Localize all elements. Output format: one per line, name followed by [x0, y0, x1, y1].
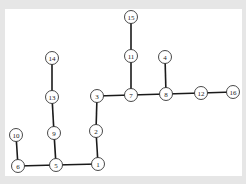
node-label: 12 [198, 90, 206, 98]
node-14: 14 [46, 52, 59, 65]
node-label: 1 [96, 161, 100, 169]
node-15: 15 [125, 11, 138, 24]
node-label: 15 [128, 14, 136, 22]
diagram-canvas: 12345678910111213141516 [0, 0, 246, 184]
node-2: 2 [90, 125, 103, 138]
node-label: 10 [13, 132, 21, 140]
node-7: 7 [125, 89, 138, 102]
node-4: 4 [159, 51, 172, 64]
node-label: 3 [95, 93, 99, 101]
node-label: 8 [164, 91, 168, 99]
node-label: 4 [163, 54, 167, 62]
node-8: 8 [160, 88, 173, 101]
node-label: 2 [94, 128, 98, 136]
node-1: 1 [92, 158, 105, 171]
node-label: 14 [49, 55, 57, 63]
node-10: 10 [10, 129, 23, 142]
node-3: 3 [91, 90, 104, 103]
node-layer: 12345678910111213141516 [10, 11, 240, 173]
node-12: 12 [195, 87, 208, 100]
node-label: 5 [54, 162, 58, 170]
node-label: 9 [52, 130, 56, 138]
node-9: 9 [48, 127, 61, 140]
node-5: 5 [50, 159, 63, 172]
node-label: 6 [16, 163, 20, 171]
node-16: 16 [227, 86, 240, 99]
node-label: 16 [230, 89, 238, 97]
node-11: 11 [125, 50, 138, 63]
tree-graph: 12345678910111213141516 [0, 0, 246, 184]
node-label: 13 [49, 94, 57, 102]
node-6: 6 [12, 160, 25, 173]
node-13: 13 [46, 91, 59, 104]
node-label: 11 [128, 53, 135, 61]
node-label: 7 [129, 92, 133, 100]
